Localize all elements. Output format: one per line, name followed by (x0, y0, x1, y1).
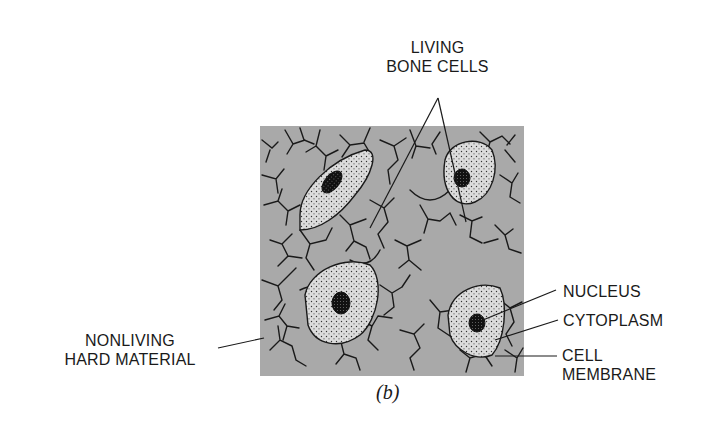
nucleus (332, 292, 350, 314)
label-line: BONE CELLS (370, 57, 505, 76)
nucleus (469, 314, 485, 332)
label-line: HARD MATERIAL (40, 350, 220, 369)
label-line: NONLIVING (40, 331, 220, 350)
label-living-bone-cells: LIVING BONE CELLS (370, 38, 505, 76)
label-cell-membrane: CELL MEMBRANE (562, 346, 656, 384)
label-nucleus: NUCLEUS (563, 282, 641, 301)
label-nonliving-hard-material: NONLIVING HARD MATERIAL (40, 331, 220, 369)
label-cytoplasm: CYTOPLASM (563, 311, 663, 330)
leader-nonliving (218, 338, 264, 348)
figure-caption: (b) (376, 381, 399, 404)
label-line: CELL (562, 346, 656, 365)
label-line: MEMBRANE (562, 365, 656, 384)
label-line: LIVING (370, 38, 505, 57)
